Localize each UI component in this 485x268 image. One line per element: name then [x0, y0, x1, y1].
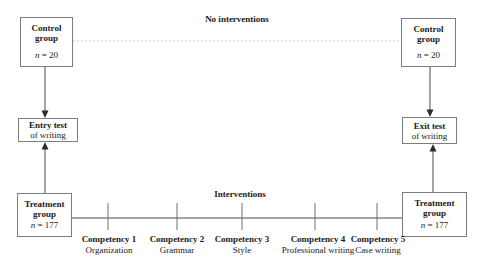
n-value: = 20	[424, 50, 440, 60]
control-group-sample-size: n = 20	[35, 50, 58, 60]
competency-subtitle: Grammar	[150, 245, 205, 256]
n-symbol: n	[31, 220, 36, 230]
entry-test-box: Entry test of writing	[18, 118, 78, 142]
competency-subtitle: Style	[215, 245, 270, 256]
n-symbol: n	[417, 50, 422, 60]
control-group-box-pre: Control group n = 20	[20, 17, 73, 67]
interventions-label: Interventions	[214, 189, 266, 199]
n-symbol: n	[421, 220, 426, 230]
entry-test-title: Entry test	[29, 120, 67, 130]
exit-test-title: Exit test	[414, 121, 446, 131]
arrow-control-to-entry	[42, 67, 49, 118]
competency-subtitle: Case writing	[351, 245, 406, 256]
treatment-group-sample-size: n = 177	[31, 220, 59, 230]
treatment-group-title: Treatment group	[404, 198, 465, 218]
competency-title: Competency 5	[351, 234, 406, 245]
competency-tick-marks	[108, 203, 377, 230]
treatment-group-title: Treatment group	[19, 199, 70, 219]
treatment-group-sample-size: n = 177	[421, 220, 449, 230]
study-design-diagram: No interventions Interventions Control g…	[0, 0, 485, 268]
exit-test-box: Exit test of writing	[402, 117, 457, 144]
arrow-treatment-to-entry	[42, 142, 49, 193]
competency-title: Competency 3	[215, 234, 270, 245]
no-interventions-label: No interventions	[205, 14, 269, 24]
competency-subtitle: Professional writing	[282, 245, 355, 256]
control-group-sample-size: n = 20	[417, 50, 440, 60]
competency-5-label: Competency 5 Case writing	[351, 234, 406, 256]
exit-test-subtitle: of writing	[412, 131, 448, 141]
n-symbol: n	[35, 50, 40, 60]
control-group-box-post: Control group n = 20	[401, 18, 456, 67]
competency-2-label: Competency 2 Grammar	[150, 234, 205, 256]
competency-3-label: Competency 3 Style	[215, 234, 270, 256]
competency-4-label: Competency 4 Professional writing	[282, 234, 355, 256]
competency-title: Competency 4	[282, 234, 355, 245]
competency-subtitle: Organization	[82, 245, 137, 256]
competency-title: Competency 1	[82, 234, 137, 245]
control-group-title: Control group	[403, 24, 454, 44]
arrow-control-to-exit	[427, 67, 434, 117]
n-value: = 177	[37, 220, 58, 230]
competency-title: Competency 2	[150, 234, 205, 245]
competency-1-label: Competency 1 Organization	[82, 234, 137, 256]
treatment-group-box-pre: Treatment group n = 177	[17, 193, 72, 237]
n-value: = 177	[427, 220, 448, 230]
control-group-title: Control group	[22, 23, 71, 43]
arrow-treatment-to-exit	[430, 144, 437, 192]
n-value: = 20	[42, 50, 58, 60]
entry-test-subtitle: of writing	[30, 130, 66, 140]
treatment-group-box-post: Treatment group n = 177	[402, 192, 467, 237]
